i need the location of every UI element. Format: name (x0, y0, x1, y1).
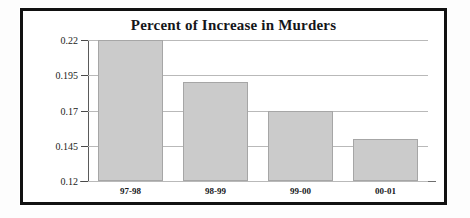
chart-title: Percent of Increase in Murders (23, 17, 444, 34)
x-axis-tick-label: 97-98 (88, 186, 173, 196)
x-axis-tick-label: 00-01 (343, 186, 428, 196)
y-axis-tick-label: 0.195 (56, 70, 79, 81)
bar[interactable] (183, 82, 248, 181)
bar-slot: 97-98 (88, 40, 173, 181)
plot-area: 0.220.1950.170.1450.12 97-9898-9999-0000… (88, 40, 428, 181)
chart-screenshot: Percent of Increase in Murders 0.220.195… (0, 0, 470, 218)
y-axis-tick (81, 40, 88, 41)
gridline (88, 181, 428, 182)
bars-group: 97-9898-9999-0000-01 (88, 40, 428, 181)
bar-slot: 99-00 (258, 40, 343, 181)
x-axis-tick-label: 99-00 (258, 186, 343, 196)
y-axis-tick-label: 0.17 (61, 105, 79, 116)
y-axis-tick-label: 0.145 (56, 140, 79, 151)
y-axis-tick (81, 111, 88, 112)
chart-frame: Percent of Increase in Murders 0.220.195… (20, 8, 447, 205)
y-axis-tick-label: 0.12 (61, 176, 79, 187)
y-axis-tick (81, 181, 88, 182)
x-axis-tick-label: 98-99 (173, 186, 258, 196)
bar[interactable] (353, 139, 418, 181)
y-axis-tick (81, 75, 88, 76)
y-axis-tick-label: 0.22 (61, 35, 79, 46)
bar-slot: 00-01 (343, 40, 428, 181)
y-axis-tick (81, 146, 88, 147)
bar[interactable] (98, 40, 163, 181)
bar-slot: 98-99 (173, 40, 258, 181)
bar[interactable] (268, 111, 333, 182)
